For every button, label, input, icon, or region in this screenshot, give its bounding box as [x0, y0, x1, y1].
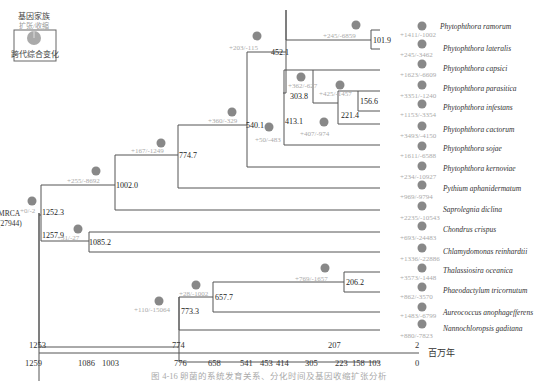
- node-age: 206.2: [346, 278, 364, 287]
- taxon-gain-loss: +1153/-3354: [400, 111, 436, 119]
- pie-icon: [320, 118, 329, 127]
- taxon-name: Chondrus crispus: [443, 225, 496, 234]
- pie-icon: [192, 281, 201, 290]
- pie-icon: [418, 222, 427, 231]
- legend-title: 基因家族: [18, 11, 50, 21]
- taxon-name: Phytophthora infestans: [442, 103, 513, 112]
- pie-icon: [418, 122, 427, 131]
- pie-icon: [418, 81, 427, 90]
- top-tick: 207: [328, 340, 341, 350]
- node-gain-loss: +203/-115: [229, 44, 258, 52]
- node-age: 774.7: [179, 151, 197, 160]
- legend-subtitle: 扩张/收缩: [19, 21, 49, 30]
- taxon-name: Phytophthora lateralis: [442, 44, 511, 53]
- bottom-tick: 0: [415, 358, 419, 368]
- top-tick: 1253: [29, 340, 46, 350]
- pie-icon: [418, 264, 427, 273]
- taxon-name: Phytophthora ramorum: [439, 22, 512, 31]
- node-gain-loss: +769/-1657: [295, 275, 328, 283]
- taxon-gain-loss: +3351/-1240: [400, 92, 437, 100]
- pie-icon: [418, 283, 427, 292]
- node-gain-loss: +28/-1002: [179, 290, 209, 298]
- bottom-tick: 103: [368, 358, 381, 368]
- node-gain-loss: +110/-15064: [134, 306, 170, 314]
- node-gain-loss: +425/-1457: [319, 90, 352, 98]
- pie-icon: [157, 139, 166, 148]
- pie-icon: [418, 22, 427, 31]
- node-gain-loss: +407/-974: [300, 130, 330, 138]
- phylogenetic-tree: 基因家族 扩张/收缩 跨代综合变化: [0, 0, 539, 381]
- pie-icon: [336, 81, 345, 90]
- node-gain-loss: +360/-329: [208, 117, 238, 125]
- taxon-gain-loss: +1411/-1002: [400, 31, 436, 39]
- pie-icon: [297, 73, 306, 82]
- legend-box-label: 跨代综合变化: [11, 49, 59, 59]
- taxon-name: Phytophthora parasitica: [442, 84, 517, 93]
- node-age: 773.3: [181, 307, 199, 316]
- node-age: 156.6: [360, 97, 378, 106]
- root-count: (27944): [0, 219, 22, 228]
- pie-icon: [253, 32, 262, 41]
- node-gain-loss: +255/-8692: [67, 177, 100, 185]
- taxon-name: Nannochloropsis gaditana: [442, 324, 523, 333]
- node-gain-loss: +167/-1249: [131, 147, 164, 155]
- taxon-gain-loss: +1336/-22886: [400, 255, 440, 263]
- node-gain-loss: +31/-27: [57, 234, 80, 242]
- pie-icon: [92, 167, 101, 176]
- bottom-tick: 453: [260, 358, 273, 368]
- node-gain-loss: +50/-483: [255, 136, 281, 144]
- node-age: 452.1: [271, 48, 289, 57]
- taxa-labels: Phytophthora ramorum +1411/-1002 Phytoph…: [400, 22, 533, 341]
- taxon-name: Thalassiosira oceanica: [443, 266, 513, 275]
- pie-icon: [418, 320, 427, 329]
- taxon-name: Phytophthora cactorum: [442, 125, 515, 134]
- node-gain-loss: +362/-627: [288, 82, 318, 90]
- taxon-name: Aureococcus anophagefferens: [442, 308, 533, 317]
- top-tick: 2: [415, 340, 419, 350]
- node-age: 1252.3: [42, 208, 64, 217]
- node-age: 221.4: [341, 111, 359, 120]
- pie-icon: [418, 303, 427, 312]
- legend: 基因家族 扩张/收缩 跨代综合变化: [11, 11, 59, 61]
- node-age: 101.9: [373, 36, 391, 45]
- node-age: 303.8: [290, 92, 308, 101]
- pie-icon: [418, 244, 427, 253]
- taxon-name: Chlamydomonas reinhardtii: [443, 247, 527, 256]
- taxon-name: Phaeodactylum tricornutum: [442, 286, 528, 295]
- node-age: 413.1: [285, 117, 303, 126]
- taxon-gain-loss: +862/-3570: [400, 293, 433, 301]
- taxon-gain-loss: +1611/-6588: [400, 152, 436, 160]
- pie-icon: [265, 123, 274, 132]
- pie-icon: [418, 60, 427, 69]
- node-gain-loss: +0/-2: [20, 207, 36, 215]
- taxon-name: Saprolegnia diclina: [443, 205, 502, 214]
- bottom-tick: 1259: [25, 358, 42, 368]
- node-gain-loss: +245/-6859: [323, 32, 356, 40]
- bottom-tick: 158: [352, 358, 365, 368]
- bottom-tick: 414: [276, 358, 290, 368]
- bottom-tick: 776: [174, 358, 187, 368]
- pie-icon: [418, 181, 427, 190]
- bottom-tick: 541: [240, 358, 253, 368]
- bottom-tick: 1003: [102, 358, 119, 368]
- pie-icon: [418, 40, 427, 49]
- node-age: 540.1: [246, 121, 264, 130]
- taxon-name: Phytophthora capsici: [442, 64, 507, 73]
- pie-icon: [418, 100, 427, 109]
- taxon-name: Phytophthora kernoviae: [442, 164, 516, 173]
- taxon-gain-loss: +969/-9794: [400, 193, 433, 201]
- bottom-tick: 658: [208, 358, 221, 368]
- pie-icon: [28, 197, 37, 206]
- axis-unit: 百万年: [428, 347, 455, 358]
- node-age: 1085.2: [89, 238, 111, 247]
- bottom-tick: 305: [305, 358, 318, 368]
- tree-branches: [39, 10, 380, 381]
- taxon-gain-loss: +693/-24483: [400, 234, 437, 242]
- pie-icon: [418, 162, 427, 171]
- taxon-gain-loss: +234/-10927: [400, 173, 437, 181]
- taxon-name: Phytophthora sojae: [442, 144, 503, 153]
- figure-caption: 图 4-16 卵菌的系统发育关系、分化时间及基因收缩扩张分析: [151, 371, 387, 381]
- taxon-gain-loss: +1483/-6799: [400, 312, 437, 320]
- taxon-gain-loss: +3493/-4150: [400, 132, 437, 140]
- taxon-gain-loss: +3573/-1448: [400, 274, 437, 282]
